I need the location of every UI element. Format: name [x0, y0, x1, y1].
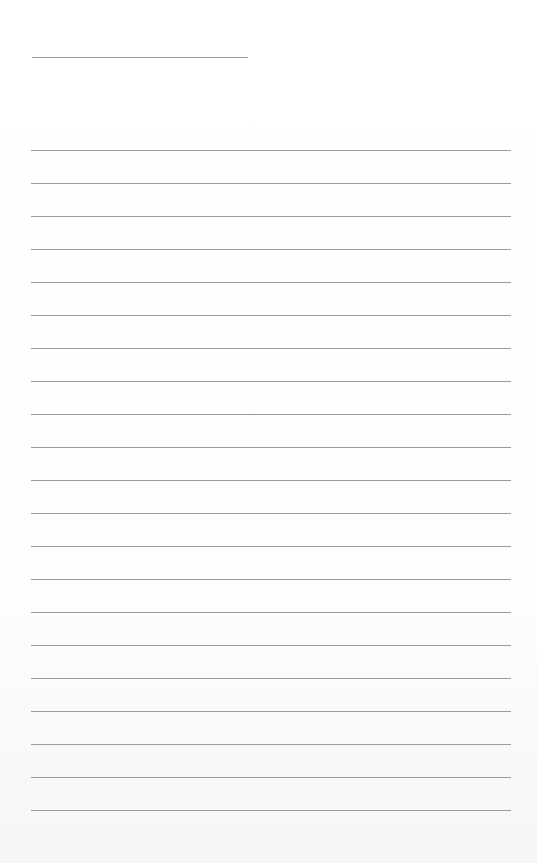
- ruled-line: [31, 150, 511, 151]
- ruled-line: [31, 513, 511, 514]
- ruled-line: [31, 315, 511, 316]
- lined-paper-sheet: [0, 0, 537, 863]
- ruled-line: [31, 645, 511, 646]
- ruled-line: [31, 612, 511, 613]
- ruled-line: [31, 414, 511, 415]
- ruled-line: [31, 348, 511, 349]
- ruled-line: [31, 249, 511, 250]
- ruled-line: [31, 744, 511, 745]
- title-line: [32, 57, 248, 58]
- ruled-line: [31, 282, 511, 283]
- ruled-line: [31, 447, 511, 448]
- ruled-line: [31, 777, 511, 778]
- ruled-line: [31, 546, 511, 547]
- ruled-line: [31, 381, 511, 382]
- ruled-line: [31, 216, 511, 217]
- ruled-line: [31, 678, 511, 679]
- ruled-line: [31, 579, 511, 580]
- ruled-line: [31, 183, 511, 184]
- ruled-line: [31, 810, 511, 811]
- ruled-line: [31, 480, 511, 481]
- ruled-line: [31, 711, 511, 712]
